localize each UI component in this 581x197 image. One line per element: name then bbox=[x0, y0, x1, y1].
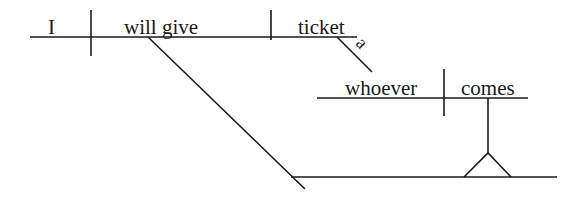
subject-word: I bbox=[48, 15, 55, 39]
direct-object-word: ticket bbox=[298, 15, 345, 39]
clause-subject-word: whoever bbox=[345, 76, 417, 100]
pedestal-triangle bbox=[464, 153, 511, 177]
clause-verb-word: comes bbox=[461, 76, 515, 100]
verb-word: will give bbox=[124, 15, 198, 39]
sentence-diagram: I will give ticket a whoever comes bbox=[0, 0, 581, 197]
modifier-word: a bbox=[352, 33, 372, 52]
indirect-object-slant bbox=[148, 37, 305, 189]
